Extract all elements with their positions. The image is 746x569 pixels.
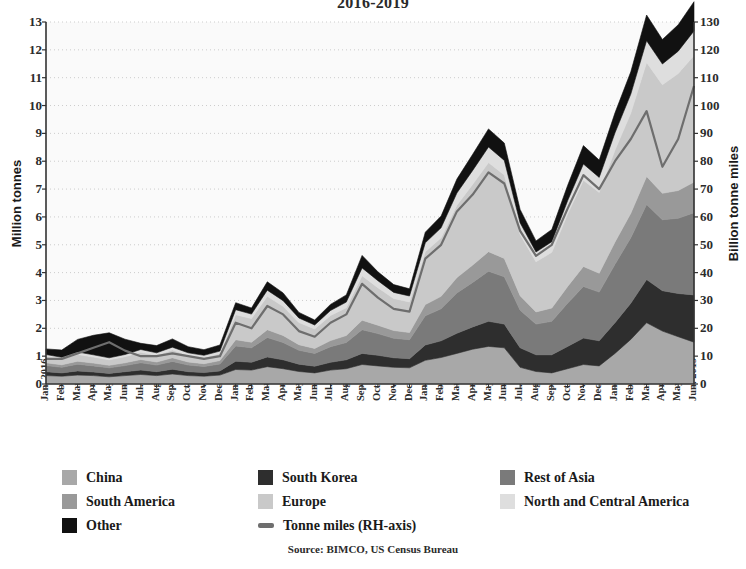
legend-color-swatch-icon: [258, 470, 273, 485]
legend-label: Other: [86, 518, 122, 534]
legend-line-swatch-icon: [258, 523, 274, 528]
legend-color-swatch-icon: [62, 494, 77, 509]
legend-row: OtherTonne miles (RH-axis): [62, 514, 734, 537]
legend-row: South AmericaEuropeNorth and Central Ame…: [62, 490, 734, 513]
legend-item[interactable]: South Korea: [258, 466, 358, 489]
legend-color-swatch-icon: [62, 470, 77, 485]
legend-label: China: [86, 470, 123, 486]
legend-item[interactable]: Other: [62, 514, 122, 537]
legend-item[interactable]: Rest of Asia: [500, 466, 595, 489]
legend-label: North and Central America: [524, 494, 689, 510]
legend-color-swatch-icon: [258, 494, 273, 509]
legend-item[interactable]: China: [62, 466, 123, 489]
legend-label: Tonne miles (RH-axis): [283, 518, 416, 534]
legend-label: South Korea: [282, 470, 358, 486]
legend-item[interactable]: Tonne miles (RH-axis): [258, 514, 416, 537]
legend-item[interactable]: North and Central America: [500, 490, 689, 513]
source-note: Source: BIMCO, US Census Bureau: [0, 543, 746, 555]
legend-item[interactable]: Europe: [258, 490, 326, 513]
legend-label: Europe: [282, 494, 326, 510]
legend-item[interactable]: South America: [62, 490, 175, 513]
legend-color-swatch-icon: [500, 494, 515, 509]
legend-color-swatch-icon: [500, 470, 515, 485]
legend-color-swatch-icon: [62, 518, 77, 533]
chart-legend: ChinaSouth KoreaRest of AsiaSouth Americ…: [62, 466, 734, 536]
legend-label: Rest of Asia: [524, 470, 595, 486]
legend-label: South America: [86, 494, 175, 510]
chart-figure: 2016-2019 Million tonnes Billion tonne m…: [0, 0, 746, 569]
legend-row: ChinaSouth KoreaRest of Asia: [62, 466, 734, 489]
